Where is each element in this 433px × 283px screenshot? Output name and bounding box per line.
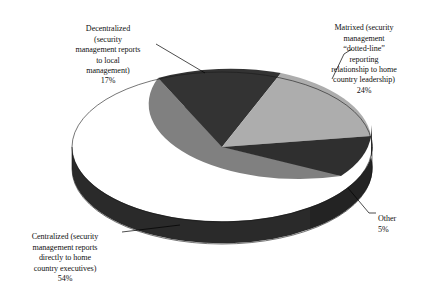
slice-label-matrixed-text: Matrixed (security management “dotted-li… bbox=[331, 23, 397, 84]
slice-label-decentralized: Decentralized (security management repor… bbox=[52, 14, 164, 97]
slice-label-decentralized-text: Decentralized (security management repor… bbox=[76, 24, 141, 75]
slice-label-centralized-percent: 54% bbox=[6, 274, 124, 283]
slice-label-other-text: Other bbox=[378, 214, 396, 223]
slice-label-other-percent: 5% bbox=[378, 225, 430, 235]
pie-chart: Matrixed (security management “dotted-li… bbox=[0, 0, 433, 283]
slice-label-matrixed: Matrixed (security management “dotted-li… bbox=[300, 13, 428, 107]
slice-label-decentralized-percent: 17% bbox=[52, 76, 164, 86]
slice-label-centralized-text: Centralized (security management reports… bbox=[32, 232, 99, 272]
slice-label-other: Other 5% bbox=[378, 204, 430, 246]
slice-label-matrixed-percent: 24% bbox=[300, 86, 428, 96]
slice-label-centralized: Centralized (security management reports… bbox=[6, 222, 124, 283]
